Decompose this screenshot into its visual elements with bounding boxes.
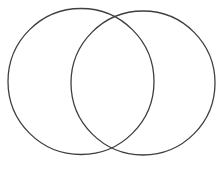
venn-svg xyxy=(0,0,220,169)
left-circle xyxy=(8,9,154,155)
venn-diagram xyxy=(0,0,220,169)
right-circle xyxy=(71,11,215,155)
